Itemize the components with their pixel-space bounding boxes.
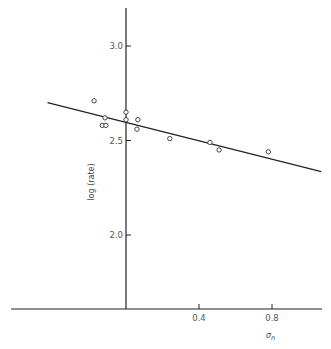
data-point-marker — [104, 123, 108, 127]
axes — [11, 8, 322, 309]
data-point-marker — [124, 118, 128, 122]
x-axis-label-subscript: n — [271, 334, 275, 342]
x-axis-label: σn — [266, 331, 275, 342]
data-point-marker — [135, 127, 139, 131]
data-point-marker — [136, 118, 140, 122]
y-tick-label: 3.0 — [109, 41, 123, 51]
fitted-line — [48, 103, 322, 172]
data-point-marker — [103, 116, 107, 120]
scatter-chart: 2.02.53.00.40.8 log (rate) σn — [0, 0, 331, 349]
data-point-marker — [168, 136, 172, 140]
data-point-marker — [124, 110, 128, 114]
ticks: 2.02.53.00.40.8 — [109, 41, 278, 323]
regression-line — [48, 103, 322, 172]
x-tick-label: 0.8 — [265, 313, 279, 323]
data-point-marker — [266, 150, 270, 154]
x-tick-label: 0.4 — [192, 313, 206, 323]
y-tick-label: 2.0 — [109, 230, 123, 240]
y-axis-label: log (rate) — [87, 163, 96, 200]
data-point-marker — [92, 99, 96, 103]
data-points — [92, 99, 271, 154]
data-point-marker — [208, 140, 212, 144]
data-point-marker — [217, 148, 221, 152]
y-tick-label: 2.5 — [109, 136, 123, 146]
